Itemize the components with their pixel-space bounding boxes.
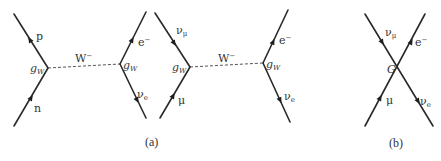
arrow-icon (378, 39, 386, 47)
muon-neutrino-to-electron-neutrino-line (365, 14, 433, 126)
label-coupling-right: gW (123, 59, 138, 73)
label-w-boson: W− (218, 52, 235, 65)
label-fermi-coupling: G (387, 63, 396, 76)
label-electron-neutrino: νe (137, 88, 148, 102)
label-proton: p (36, 30, 43, 43)
label-muon-neutrino: νμ (176, 24, 188, 38)
label-muon-neutrino: νμ (385, 26, 397, 40)
diagram-muon-decay-w: νμ μ e− νe W− gW gW (155, 10, 295, 122)
arrow-icon (377, 94, 384, 102)
caption-panel-b: (b) (389, 136, 403, 150)
label-muon: μ (178, 94, 185, 107)
arrow-icon (169, 92, 177, 100)
feynman-diagrams-figure: p n e− νe W− gW gW νμ μ e− νe W− gW gW ν… (0, 0, 441, 161)
label-w-boson: W− (75, 52, 92, 65)
label-neutron: n (34, 102, 41, 115)
arrow-icon (277, 97, 284, 105)
label-coupling-left: gW (30, 62, 45, 76)
arrow-icon (270, 38, 277, 46)
label-electron: e− (279, 34, 292, 47)
arrow-icon (129, 36, 136, 44)
label-coupling-right: gW (266, 58, 281, 72)
caption-panel-a: (a) (145, 135, 158, 149)
label-muon: μ (386, 94, 393, 107)
label-coupling-left: gW (172, 61, 187, 75)
label-electron-neutrino: νe (284, 90, 295, 104)
muon-neutrino-line (155, 13, 190, 67)
label-electron: e− (138, 36, 151, 49)
diagram-beta-decay: p n e− νe W− gW gW (14, 12, 151, 126)
label-electron-neutrino: νe (420, 95, 431, 109)
label-electron: e− (415, 36, 428, 49)
diagram-fermi-contact: νμ μ e− νe G (365, 14, 433, 126)
